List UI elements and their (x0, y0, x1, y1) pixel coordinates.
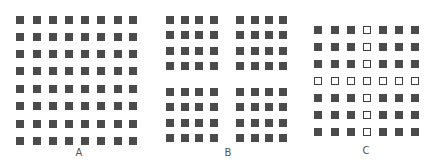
filled-square (65, 102, 73, 110)
filled-square (279, 119, 287, 127)
filled-square (347, 111, 355, 119)
filled-square (166, 31, 174, 39)
filled-square (265, 62, 273, 70)
filled-square (331, 43, 339, 51)
filled-square (251, 31, 259, 39)
filled-square (49, 33, 57, 41)
filled-square (114, 50, 122, 58)
filled-square (347, 43, 355, 51)
filled-square (251, 119, 259, 127)
filled-square (395, 111, 403, 119)
filled-square (379, 94, 387, 102)
filled-square (114, 102, 122, 110)
filled-square (279, 62, 287, 70)
filled-square (210, 62, 218, 70)
filled-square (33, 67, 41, 75)
filled-square (49, 85, 57, 93)
filled-square (33, 85, 41, 93)
filled-square (181, 103, 189, 111)
filled-square (65, 120, 73, 128)
filled-square (129, 137, 137, 145)
filled-square (129, 16, 137, 24)
filled-square (395, 43, 403, 51)
filled-square (331, 26, 339, 34)
filled-square (81, 50, 89, 58)
filled-square (331, 111, 339, 119)
filled-square (347, 60, 355, 68)
filled-square (65, 85, 73, 93)
filled-square (181, 134, 189, 142)
filled-square (129, 120, 137, 128)
filled-square (236, 31, 244, 39)
filled-square (379, 111, 387, 119)
hollow-square (363, 26, 371, 34)
filled-square (81, 16, 89, 24)
panel-a-label: A (76, 148, 83, 158)
filled-square (347, 94, 355, 102)
hollow-square (331, 77, 339, 85)
filled-square (265, 47, 273, 55)
filled-square (331, 128, 339, 136)
filled-square (65, 137, 73, 145)
filled-square (114, 67, 122, 75)
filled-square (314, 94, 322, 102)
filled-square (411, 111, 419, 119)
filled-square (314, 60, 322, 68)
filled-square (65, 50, 73, 58)
filled-square (236, 47, 244, 55)
filled-square (81, 137, 89, 145)
filled-square (49, 102, 57, 110)
filled-square (33, 50, 41, 58)
filled-square (210, 134, 218, 142)
filled-square (210, 16, 218, 24)
filled-square (49, 137, 57, 145)
filled-square (166, 134, 174, 142)
filled-square (331, 60, 339, 68)
hollow-square (363, 94, 371, 102)
filled-square (379, 43, 387, 51)
filled-square (265, 103, 273, 111)
hollow-square (314, 77, 322, 85)
filled-square (195, 31, 203, 39)
filled-square (314, 26, 322, 34)
filled-square (97, 102, 105, 110)
filled-square (195, 47, 203, 55)
filled-square (49, 50, 57, 58)
filled-square (265, 119, 273, 127)
filled-square (236, 16, 244, 24)
filled-square (195, 103, 203, 111)
panel-c-label: C (363, 146, 370, 156)
filled-square (16, 16, 24, 24)
filled-square (97, 85, 105, 93)
filled-square (33, 16, 41, 24)
filled-square (33, 102, 41, 110)
filled-square (314, 128, 322, 136)
filled-square (210, 119, 218, 127)
hollow-square (363, 128, 371, 136)
filled-square (65, 33, 73, 41)
filled-square (279, 31, 287, 39)
filled-square (279, 103, 287, 111)
filled-square (97, 137, 105, 145)
filled-square (166, 88, 174, 96)
filled-square (210, 31, 218, 39)
filled-square (65, 67, 73, 75)
hollow-square (363, 77, 371, 85)
filled-square (97, 50, 105, 58)
filled-square (314, 111, 322, 119)
hollow-square (363, 60, 371, 68)
filled-square (411, 43, 419, 51)
filled-square (129, 85, 137, 93)
filled-square (279, 88, 287, 96)
filled-square (129, 67, 137, 75)
hollow-square (363, 111, 371, 119)
filled-square (251, 16, 259, 24)
hollow-square (363, 43, 371, 51)
hollow-square (395, 77, 403, 85)
filled-square (181, 62, 189, 70)
filled-square (411, 26, 419, 34)
filled-square (114, 16, 122, 24)
filled-square (166, 62, 174, 70)
filled-square (181, 119, 189, 127)
filled-square (195, 16, 203, 24)
